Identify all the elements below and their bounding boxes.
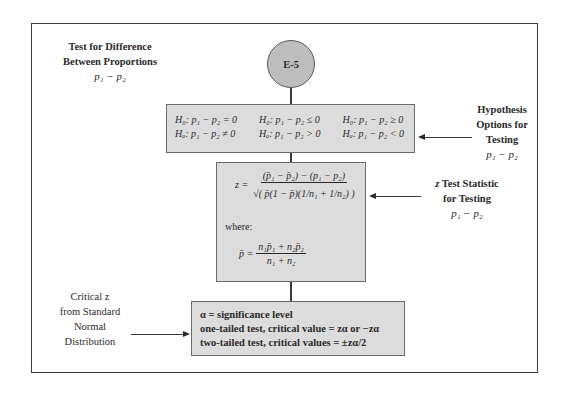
hypothesis-label: Hypothesis Options for Testing p₁ − p₂ (462, 102, 542, 162)
critical-label-line-4: Distribution (45, 334, 135, 349)
z-numerator: (p̄₁ − p̄₂) − (p₁ − p₂) (261, 169, 347, 183)
node-label: E-5 (283, 59, 299, 70)
critical-label-line-2: from Standard (45, 304, 135, 319)
hypothesis-arrowhead-icon (418, 134, 425, 140)
title-line-3: p₁ − p₂ (45, 69, 175, 84)
statistic-label: z Test Statistic for Testing p₁ − p₂ (412, 176, 522, 221)
pbar-formula: p̄ = n₁p̄₁ + n₂p̄₂ n₁ + n₂ (239, 240, 306, 267)
critical-label-line-1: Critical z (45, 289, 135, 304)
z-formula: z = (p̄₁ − p̄₂) − (p₁ − p₂) √( p̄(1 − p̄… (235, 169, 357, 200)
hypothesis-ha-lower: Hₐ: p₁ − p₂ < 0 (343, 127, 414, 141)
critical-line-2: one-tailed test, critical value = zα or … (200, 322, 404, 336)
statistic-label-text: Test Statistic (439, 178, 499, 189)
title-block: Test for Difference Between Proportions … (45, 39, 175, 84)
pbar-numerator: n₁p̄₁ + n₂p̄₂ (256, 240, 306, 254)
hypothesis-box: H₀: p₁ − p₂ = 0 H₀: p₁ − p₂ ≤ 0 H₀: p₁ −… (166, 104, 415, 153)
hypothesis-label-line-2: Options for (462, 117, 542, 132)
critical-arrowhead-icon (183, 331, 190, 337)
title-line-2: Between Proportions (45, 54, 175, 69)
z-lhs: z = (235, 179, 248, 190)
pbar-fraction: n₁p̄₁ + n₂p̄₂ n₁ + n₂ (256, 240, 306, 267)
connector-hypothesis-to-statistic (290, 153, 292, 162)
statistic-label-line-3: p₁ − p₂ (412, 206, 522, 221)
z-denominator: √( p̄(1 − p̄)(1/n₁ + 1/n₂) ) (251, 183, 356, 200)
pbar-lhs: p̄ = (239, 248, 253, 259)
title-line-1: Test for Difference (45, 39, 175, 54)
connector-statistic-to-critical (290, 282, 292, 301)
node-e5: E-5 (267, 40, 315, 88)
hypothesis-h0-upper: H₀: p₁ − p₂ ≤ 0 (259, 113, 330, 127)
hypothesis-ha-two-tailed: Hₐ: p₁ − p₂ ≠ 0 (175, 127, 247, 141)
connector-circle-to-hypothesis (290, 88, 292, 104)
statistic-box: z = (p̄₁ − p̄₂) − (p₁ − p₂) √( p̄(1 − p̄… (216, 162, 366, 282)
hypothesis-label-line-1: Hypothesis (462, 102, 542, 117)
critical-label-line-3: Normal (45, 319, 135, 334)
critical-line-3: two-tailed test, critical values = ±zα/2 (200, 336, 404, 350)
z-fraction: (p̄₁ − p̄₂) − (p₁ − p₂) √( p̄(1 − p̄)(1/… (251, 169, 356, 200)
statistic-arrowhead-icon (369, 193, 376, 199)
critical-line-1: α = significance level (200, 308, 404, 322)
pbar-denominator: n₁ + n₂ (265, 254, 298, 267)
hypothesis-label-line-4: p₁ − p₂ (462, 147, 542, 162)
hypothesis-h0-two-tailed: H₀: p₁ − p₂ = 0 (175, 113, 247, 127)
hypothesis-label-line-3: Testing (462, 132, 542, 147)
statistic-label-line-2: for Testing (412, 191, 522, 206)
where-label: where: (225, 221, 252, 232)
hypothesis-h0-lower: H₀: p₁ − p₂ ≥ 0 (343, 113, 414, 127)
hypothesis-ha-upper: Hₐ: p₁ − p₂ > 0 (259, 127, 330, 141)
critical-label: Critical z from Standard Normal Distribu… (45, 289, 135, 349)
critical-arrow-line (131, 334, 184, 335)
critical-value-box: α = significance level one-tailed test, … (191, 301, 405, 356)
statistic-label-line-1: z Test Statistic (412, 176, 522, 191)
